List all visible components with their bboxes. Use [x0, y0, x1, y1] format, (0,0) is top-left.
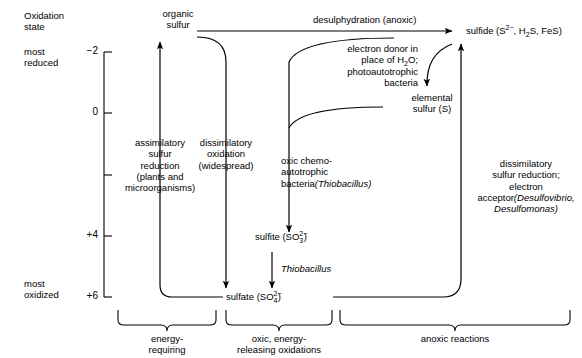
node-sulfite: sulfite (SO2−3) — [255, 231, 365, 242]
node-sulfide-charge: 2− — [506, 24, 514, 31]
label-dissimilatory-oxidation: dissimilatory oxidation (widespread) — [180, 137, 272, 171]
bottom-brackets — [118, 310, 570, 331]
arrow-sulfide-to-elemental-sulfur — [427, 44, 452, 86]
axis-title: Oxidation state — [24, 10, 64, 33]
axis-most-reduced-label: most reduced — [24, 46, 58, 69]
node-sulfide: sulfide (S2−, H2S, FeS) — [466, 25, 582, 36]
axis-tick-minus-2: −2 — [72, 45, 98, 56]
sulfur-cycle-diagram: Oxidation state most reduced most oxidiz… — [0, 0, 582, 358]
label-desulphydration: desulphydration (anoxic) — [313, 14, 417, 25]
node-sulfate: sulfate (SO2−4) — [226, 291, 338, 302]
bracket-label-anoxic-reactions: anoxic reactions — [395, 333, 515, 344]
label-dissimilatory-reduction: dissimilatory sulfur reduction; electron… — [470, 158, 582, 214]
bracket-label-energy-requiring: energy- requiring — [127, 333, 207, 356]
label-oxic-chemoautotrophic: oxic chemo- autotrophic bacteria(Thiobac… — [281, 155, 381, 189]
node-sulfite-sub: 3 — [299, 237, 303, 244]
node-elemental-sulfur: elemental sulfur (S) — [396, 92, 468, 115]
axis-most-oxidized-label: most oxidized — [24, 278, 59, 301]
bracket-label-oxic-energy-releasing: oxic, energy- releasing oxidations — [219, 333, 339, 356]
node-sulfite-sup: 2− — [299, 230, 307, 237]
axis-tick-0: 0 — [72, 106, 98, 117]
axis-tick-6: +6 — [72, 290, 98, 301]
label-electron-donor: electron donor in place of H2O; photoaut… — [318, 43, 418, 88]
arrow-elemental-sulfur-to-sulfate — [289, 107, 383, 128]
node-sulfate-text: sulfate (SO — [226, 291, 274, 302]
node-sulfate-sub: 4 — [274, 297, 278, 304]
node-sulfide-text: sulfide (S — [466, 25, 506, 36]
label-thiobacillus: Thiobacillus — [281, 263, 331, 274]
node-sulfate-sup: 2− — [274, 290, 282, 297]
node-sulfide-mid: , H — [514, 25, 526, 36]
node-organic-sulfur: organic sulfur — [147, 8, 209, 31]
node-sulfite-text: sulfite (SO — [255, 231, 299, 242]
axis-tick-4: +4 — [72, 229, 98, 240]
label-oxic-chemo-organism: (Thiobacillus) — [315, 178, 372, 189]
node-sulfide-end: S, FeS) — [530, 25, 562, 36]
